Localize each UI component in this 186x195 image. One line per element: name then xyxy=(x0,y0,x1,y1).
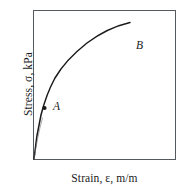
point-b-label: B xyxy=(136,40,143,52)
stress-strain-curve xyxy=(34,23,130,160)
x-axis-label: Strain, ε, m/m xyxy=(33,172,176,184)
point-a-label: A xyxy=(53,101,60,113)
stress-strain-figure: A B Stress, σ, kPa Strain, ε, m/m xyxy=(0,0,186,195)
chart-plot-area xyxy=(33,10,176,160)
point-a-marker xyxy=(42,106,46,110)
y-axis-label: Stress, σ, kPa xyxy=(22,9,34,159)
